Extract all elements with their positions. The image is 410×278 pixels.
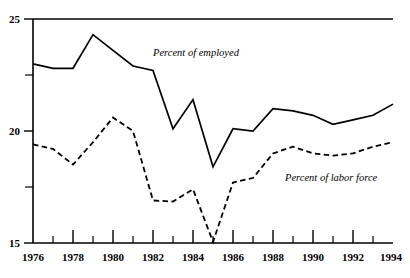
x-label-1982: 1982 [142,251,165,263]
x-label-1992: 1992 [342,251,365,263]
annotation-percent-of-labor-force: Percent of labor force [284,172,378,183]
x-label-1988: 1988 [262,251,285,263]
y-ticks [24,19,33,243]
annotation-percent-of-employed: Percent of employed [152,47,240,58]
x-label-1984: 1984 [182,251,205,263]
y-label-20: 20 [9,125,21,137]
x-label-1986: 1986 [222,251,245,263]
x-label-1976: 1976 [22,251,45,263]
chart-container: 25 20 15 1976 [0,0,410,278]
x-label-1978: 1978 [62,251,85,263]
x-label-1980: 1980 [102,251,125,263]
x-label-1994: 1994 [380,251,403,263]
y-label-15: 15 [9,237,21,249]
y-tick-labels: 25 20 15 [9,13,21,249]
x-label-1990: 1990 [302,251,325,263]
y-label-25: 25 [9,13,21,25]
line-chart: 25 20 15 1976 [0,0,410,278]
x-tick-labels: 1976 1978 1980 1982 1984 1986 1988 1990 … [22,251,403,263]
